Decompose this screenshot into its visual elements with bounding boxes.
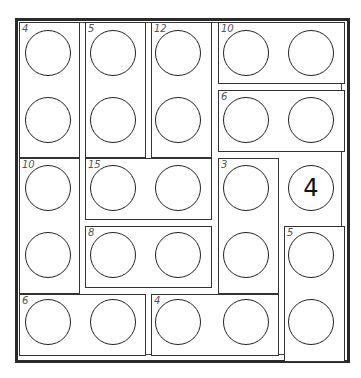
cell-input[interactable] <box>155 165 201 211</box>
cell-input[interactable] <box>25 165 71 211</box>
cage-sum-label: 5 <box>287 227 293 238</box>
cage-sum-label: 8 <box>88 227 94 238</box>
cell-input[interactable] <box>155 232 201 278</box>
cell-input[interactable] <box>90 299 136 345</box>
cell-input[interactable] <box>155 30 201 76</box>
cell-input[interactable] <box>90 232 136 278</box>
cell-input[interactable] <box>90 97 136 143</box>
cell-input[interactable] <box>288 299 334 345</box>
cell-input[interactable] <box>223 232 269 278</box>
cell-input[interactable] <box>155 97 201 143</box>
cage-sum-label: 10 <box>22 159 35 170</box>
cell-input[interactable] <box>25 30 71 76</box>
cell-input[interactable] <box>155 299 201 345</box>
cell-input[interactable] <box>90 165 136 211</box>
cell-input[interactable] <box>288 97 334 143</box>
cage-sum-label: 4 <box>22 23 28 34</box>
cell-input[interactable] <box>288 30 334 76</box>
cage-sum-label: 12 <box>154 23 167 34</box>
cage-sum-label: 6 <box>221 91 227 102</box>
given-cell: 4 <box>288 165 334 211</box>
cell-input[interactable] <box>25 232 71 278</box>
cage-sum-label: 4 <box>154 295 160 306</box>
cell-input[interactable] <box>223 30 269 76</box>
cell-input[interactable] <box>25 97 71 143</box>
cell-input[interactable] <box>90 30 136 76</box>
cell-input[interactable] <box>288 232 334 278</box>
cage-sum-label: 6 <box>22 295 28 306</box>
cell-input[interactable] <box>25 299 71 345</box>
cell-input[interactable] <box>223 165 269 211</box>
cell-input[interactable] <box>223 97 269 143</box>
cage-sum-label: 5 <box>88 23 94 34</box>
cell-input[interactable] <box>223 299 269 345</box>
cage-sum-label: 3 <box>221 159 227 170</box>
cage-sum-label: 10 <box>221 23 234 34</box>
